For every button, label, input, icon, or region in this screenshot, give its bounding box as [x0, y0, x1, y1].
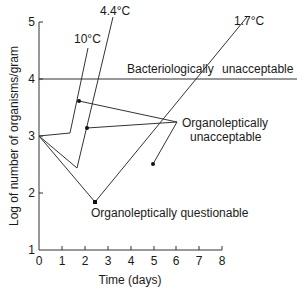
x-tick-labels: 0 1 2 3 4 5 6 7 8 [36, 254, 226, 268]
x-tick-7: 7 [196, 254, 203, 268]
series-lines [39, 17, 247, 202]
org-unacceptable-label-1: Organoleptically [182, 116, 268, 130]
growth-chart: 5 4 3 2 1 0 1 2 3 4 5 6 7 8 Time (days) … [0, 0, 307, 295]
series-1-7c-line [39, 17, 247, 202]
y-tick-2: 2 [28, 186, 35, 200]
x-tick-5: 5 [151, 254, 158, 268]
x-tick-3: 3 [105, 254, 112, 268]
org-questionable-label: Organoleptically questionable [91, 206, 249, 220]
y-tick-4: 4 [28, 72, 35, 86]
x-tick-6: 6 [173, 254, 180, 268]
y-tick-3: 3 [28, 129, 35, 143]
x-tick-8: 8 [219, 254, 226, 268]
series-4-4c-label: 4.4°C [100, 4, 130, 18]
marker-10c [77, 99, 81, 103]
series-1-7c-label: 1.7°C [234, 14, 264, 28]
y-tick-labels: 5 4 3 2 1 [28, 15, 35, 257]
x-tick-0: 0 [36, 254, 43, 268]
y-tick-5: 5 [28, 15, 35, 29]
x-tick-2: 2 [82, 254, 89, 268]
bacteriological-label-2: unacceptable [222, 62, 294, 76]
x-tick-4: 4 [128, 254, 135, 268]
marker-4-4c [85, 126, 89, 130]
org-unacceptable-label-2: unacceptable [190, 130, 262, 144]
x-axis-label: Time (days) [99, 273, 162, 287]
series-10c-label: 10°C [74, 32, 101, 46]
annotation-pointers [79, 101, 177, 164]
y-axis-label: Log of number of organisms/gram [7, 46, 21, 226]
series-10c-line [39, 48, 88, 136]
x-tick-1: 1 [59, 254, 66, 268]
marker-1-7c [151, 162, 155, 166]
marker-questionable [93, 200, 97, 204]
y-tick-1: 1 [28, 243, 35, 257]
